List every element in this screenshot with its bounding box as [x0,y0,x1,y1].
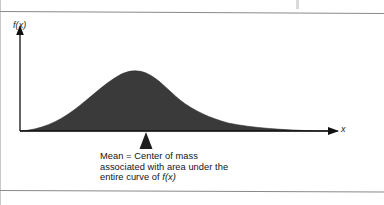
x-axis-arrowhead [328,127,339,135]
caption-line-3-text: entire curve of [100,172,162,182]
figure-container: f(x) x Mean = Center of mass associated … [0,0,384,205]
y-axis-label: f(x) [13,20,26,30]
caption-line-3-function: f(x) [162,172,176,182]
mean-fulcrum-triangle [140,132,153,149]
density-curve-area [20,71,338,131]
mean-caption: Mean = Center of mass associated with ar… [100,151,228,183]
caption-line-3: entire curve of f(x) [100,172,228,183]
x-axis-label: x [341,124,346,134]
caption-line-1: Mean = Center of mass [100,151,228,162]
caption-line-2: associated with area under the [100,162,228,173]
